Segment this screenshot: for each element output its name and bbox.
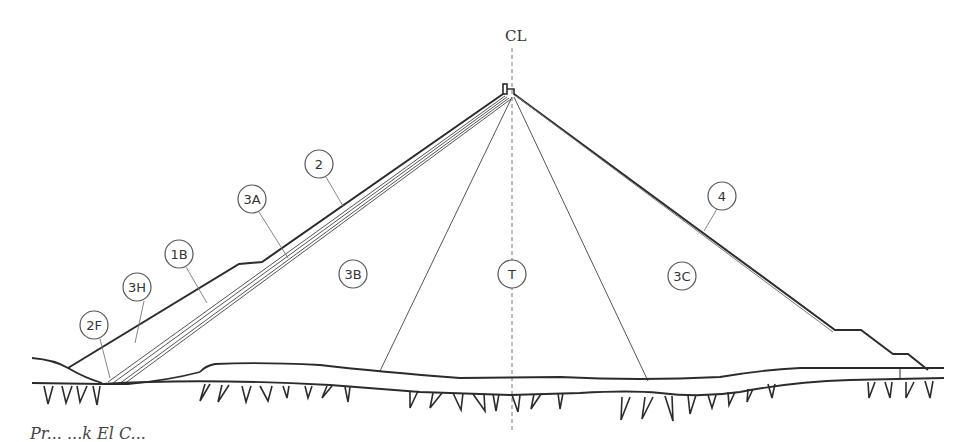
svg-text:3C: 3C [673, 269, 690, 284]
upstream-ground [32, 358, 200, 384]
zone-label-4: 4 [708, 182, 736, 210]
svg-text:2: 2 [315, 157, 323, 172]
svg-text:T: T [507, 267, 516, 282]
svg-text:3H: 3H [128, 280, 146, 295]
zone-label-3B: 3B [339, 260, 367, 288]
foundation-hatching [44, 381, 933, 421]
zone-label-3C: 3C [668, 262, 696, 290]
zone-label-3A: 3A [238, 185, 266, 213]
upstream-face [68, 94, 511, 384]
svg-text:1B: 1B [170, 247, 187, 262]
zone-label-2: 2 [305, 150, 333, 178]
foundation [102, 363, 944, 395]
figure-caption: Pr... ...k El C... [30, 424, 146, 442]
svg-text:2F: 2F [86, 318, 102, 333]
zone-label-3H: 3H [123, 273, 151, 301]
centerline-label: CL [505, 27, 526, 45]
zone-label-1B: 1B [165, 240, 193, 268]
dam-cross-section-diagram: CL [0, 0, 971, 442]
leader-lines [100, 177, 717, 378]
svg-text:4: 4 [718, 189, 726, 204]
svg-text:3A: 3A [243, 192, 260, 207]
zone-label-T: T [498, 260, 526, 288]
downstream-face [514, 94, 928, 370]
zone-label-2F: 2F [80, 311, 108, 339]
core-lines [380, 97, 648, 381]
svg-text:3B: 3B [344, 267, 361, 282]
